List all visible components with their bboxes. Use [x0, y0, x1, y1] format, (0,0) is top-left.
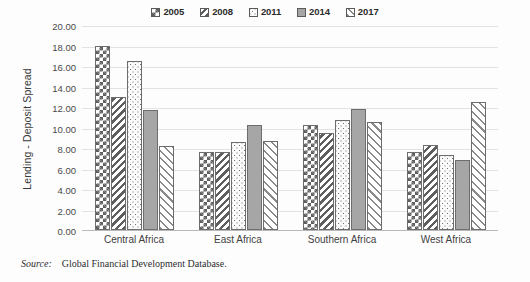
bar-2008-west-africa[interactable] — [423, 145, 438, 230]
bar-group-east-africa — [186, 26, 290, 230]
bar-2005-east-africa[interactable] — [199, 152, 214, 230]
x-axis-label-west-africa: West Africa — [394, 232, 498, 248]
legend-swatch-2008 — [200, 8, 209, 17]
y-tick-label: 16.00 — [52, 62, 76, 73]
y-tick-label: 4.00 — [58, 185, 77, 196]
legend-swatch-2005 — [151, 8, 160, 17]
legend-swatch-2017 — [346, 8, 355, 17]
legend-swatch-2014 — [297, 8, 306, 17]
y-axis-tick-labels: 20.0018.0016.0014.0012.0010.008.006.004.… — [36, 26, 80, 231]
source-note: Source: Global Financial Development Dat… — [21, 258, 227, 269]
legend-entry-2011[interactable]: 2011 — [249, 7, 281, 17]
legend-entry-2017[interactable]: 2017 — [346, 7, 379, 17]
legend-label-2017: 2017 — [358, 7, 379, 17]
y-tick-label: 18.00 — [52, 41, 76, 52]
legend-label-2008: 2008 — [212, 7, 233, 17]
source-text: Global Financial Development Database. — [62, 258, 227, 269]
y-tick-label: 6.00 — [58, 164, 77, 175]
legend-label-2011: 2011 — [261, 7, 281, 17]
bar-group-west-africa — [394, 26, 498, 230]
bar-2014-central-africa[interactable] — [143, 110, 158, 230]
legend-swatch-2011 — [249, 8, 258, 17]
bar-2008-central-africa[interactable] — [111, 97, 126, 230]
bar-2005-west-africa[interactable] — [407, 152, 422, 230]
legend-entry-2005[interactable]: 2005 — [151, 7, 184, 17]
bar-2011-east-africa[interactable] — [231, 142, 246, 230]
x-axis-label-southern-africa: Southern Africa — [290, 232, 394, 248]
bar-groups — [82, 26, 498, 230]
bar-2005-southern-africa[interactable] — [303, 125, 318, 230]
y-tick-label: 0.00 — [58, 226, 77, 237]
bar-2017-central-africa[interactable] — [159, 146, 174, 230]
y-axis-title: Lending - Deposit Spread — [18, 26, 36, 231]
legend-label-2014: 2014 — [309, 7, 330, 17]
bar-2011-southern-africa[interactable] — [335, 120, 350, 230]
bar-2008-east-africa[interactable] — [215, 152, 230, 230]
source-label: Source: — [21, 258, 52, 269]
figure-container: 20052008201120142017 Lending - Deposit S… — [0, 0, 530, 282]
y-tick-label: 8.00 — [58, 144, 77, 155]
bar-2011-west-africa[interactable] — [439, 155, 454, 230]
bar-2017-east-africa[interactable] — [263, 141, 278, 230]
bar-2017-west-africa[interactable] — [471, 102, 486, 230]
y-tick-label: 2.00 — [58, 205, 77, 216]
bar-2014-west-africa[interactable] — [455, 160, 470, 230]
x-axis-label-central-africa: Central Africa — [82, 232, 186, 248]
bar-group-central-africa — [82, 26, 186, 230]
y-tick-label: 10.00 — [52, 123, 76, 134]
legend-label-2005: 2005 — [163, 7, 184, 17]
bar-2017-southern-africa[interactable] — [367, 122, 382, 230]
chart-legend: 20052008201120142017 — [0, 4, 530, 20]
legend-entry-2008[interactable]: 2008 — [200, 7, 233, 17]
bar-group-southern-africa — [290, 26, 394, 230]
chart-area: Lending - Deposit Spread 20.0018.0016.00… — [20, 26, 512, 248]
bar-2008-southern-africa[interactable] — [319, 133, 334, 230]
plot-region — [82, 26, 498, 231]
y-tick-label: 14.00 — [52, 82, 76, 93]
x-axis-category-labels: Central AfricaEast AfricaSouthern Africa… — [82, 232, 498, 248]
legend-entry-2014[interactable]: 2014 — [297, 7, 330, 17]
y-tick-label: 12.00 — [52, 103, 76, 114]
x-axis-label-east-africa: East Africa — [186, 232, 290, 248]
y-tick-label: 20.00 — [52, 21, 76, 32]
y-axis-title-text: Lending - Deposit Spread — [21, 68, 33, 189]
bar-2014-east-africa[interactable] — [247, 125, 262, 230]
bar-2011-central-africa[interactable] — [127, 61, 142, 230]
bar-2005-central-africa[interactable] — [95, 46, 110, 231]
bar-2014-southern-africa[interactable] — [351, 109, 366, 230]
